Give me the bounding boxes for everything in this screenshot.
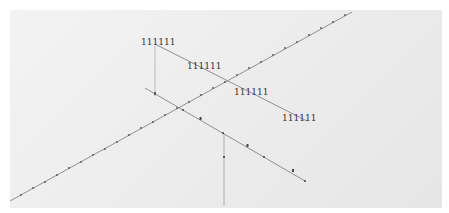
node-label-2: 111111 (187, 61, 221, 71)
diagram-canvas: 111111 111111 111111 111111 (0, 0, 449, 213)
lower-branch-line (145, 88, 306, 182)
node-label-3: 111111 (234, 87, 268, 97)
diagram-svg: 111111 111111 111111 111111 (0, 0, 449, 213)
label-branch-line (155, 44, 307, 121)
node-label-4: 111111 (282, 113, 316, 123)
vertical-connector-1 (154, 46, 156, 96)
node-label-1: 111111 (141, 37, 175, 47)
vertical-connector-2 (223, 134, 225, 206)
main-axis-line (10, 12, 352, 201)
